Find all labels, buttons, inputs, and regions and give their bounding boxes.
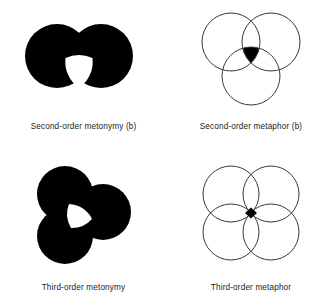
diagram-third-order-metonymy (14, 158, 154, 270)
circle-top-left (202, 13, 260, 71)
caption-second-order-metaphor-b: Second-order metaphor (b) (200, 122, 303, 131)
caption-second-order-metonymy-b: Second-order metonymy (b) (31, 122, 137, 131)
panel-third-order-metonymy: Third-order metonymy (0, 150, 167, 299)
svg-two-filled-circles (14, 10, 154, 110)
caption-third-order-metonymy: Third-order metonymy (42, 283, 126, 292)
panel-third-order-metaphor: Third-order metaphor (167, 150, 335, 299)
filled-circle-group (25, 24, 133, 88)
circle-right (69, 24, 133, 88)
circle-bottom-left (37, 208, 93, 264)
diagram-third-order-metaphor (181, 158, 321, 270)
svg-three-filled-circles (14, 162, 154, 266)
filled-circle-group (37, 166, 131, 264)
caption-third-order-metaphor: Third-order metaphor (211, 283, 291, 292)
figure-sheet: Second-order metonymy (b) (0, 0, 335, 299)
diagram-second-order-metaphor-b (181, 4, 321, 116)
circle-top-right (242, 13, 300, 71)
panel-second-order-metonymy-b: Second-order metonymy (b) (0, 0, 167, 150)
panel-second-order-metaphor-b: Second-order metaphor (b) (167, 0, 335, 150)
svg-four-outline-circles (181, 162, 321, 266)
svg-three-outline-circles (181, 4, 321, 116)
diagram-second-order-metonymy-b (14, 4, 154, 116)
